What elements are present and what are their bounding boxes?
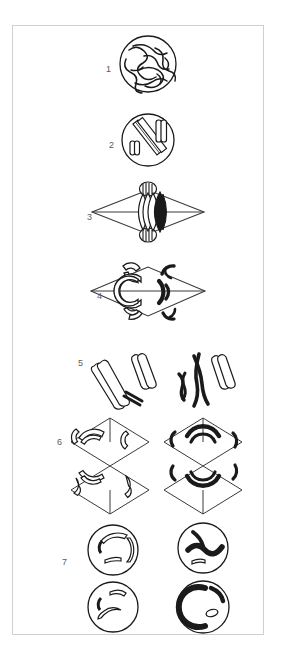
stage-6-graphic bbox=[71, 418, 242, 514]
stage-1-graphic bbox=[120, 36, 176, 93]
stage-4-graphic bbox=[91, 263, 205, 319]
stage-label-5: 5 bbox=[78, 359, 83, 368]
stage-label-2: 2 bbox=[109, 141, 114, 150]
stage-5-graphic bbox=[91, 354, 235, 409]
daughter-cell-bottom-right bbox=[177, 581, 229, 633]
stage-label-4: 4 bbox=[97, 292, 102, 301]
stage-6-left-outlined-arcs bbox=[71, 429, 131, 497]
daughter-cell-bottom-left bbox=[88, 582, 138, 632]
figure-frame: 1 2 3 4 5 6 7 bbox=[12, 25, 264, 635]
stage-2-graphic bbox=[122, 114, 174, 166]
stage-label-6: 6 bbox=[57, 438, 62, 447]
stage-5-outlined-pairs bbox=[91, 354, 156, 409]
stage-5-right-outlined-pair bbox=[212, 355, 236, 389]
stage-7-graphic bbox=[88, 523, 229, 633]
stage-3-graphic bbox=[92, 182, 204, 242]
stage-label-1: 1 bbox=[106, 65, 111, 74]
stage-6-right-filled-arcs bbox=[171, 426, 237, 486]
meiosis-diagram bbox=[13, 26, 265, 636]
stage-5-filled-pairs bbox=[179, 354, 208, 406]
daughter-cell-top-right bbox=[178, 523, 228, 573]
equatorial-chromosomes bbox=[139, 192, 167, 232]
stage-4-filled-chromosomes bbox=[159, 266, 175, 319]
stage-label-3: 3 bbox=[87, 213, 92, 222]
daughter-cell-top-left bbox=[88, 525, 138, 575]
stage-label-7: 7 bbox=[62, 558, 67, 567]
